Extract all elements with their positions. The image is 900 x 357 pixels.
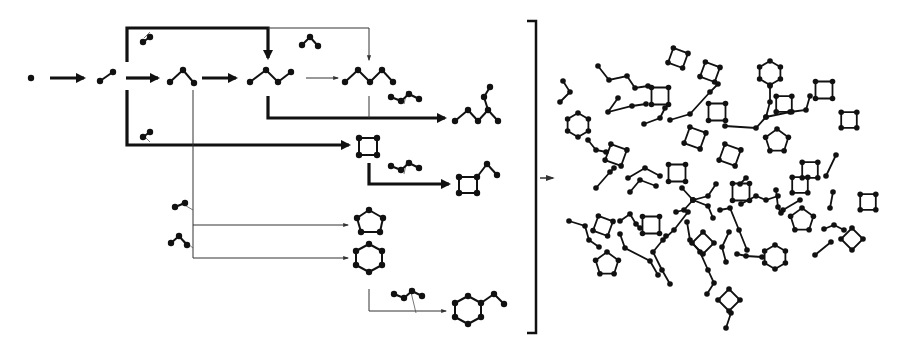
atom-node [711, 280, 717, 286]
atom-node [590, 228, 596, 234]
atom-node [710, 215, 716, 221]
atom-node [753, 125, 759, 131]
atom-node [627, 211, 633, 217]
atom-node [719, 244, 725, 250]
arrow-to-hexagon [193, 225, 348, 258]
atom-node [726, 229, 732, 235]
atom-node [833, 152, 839, 158]
atom-node [778, 210, 784, 216]
atom-node [666, 179, 672, 185]
atom-node [147, 34, 153, 40]
atom-node [608, 141, 614, 147]
atom-node [566, 218, 572, 224]
atom-node [494, 172, 500, 178]
atom-node [649, 102, 655, 108]
atom-node [726, 286, 732, 292]
diagram-canvas [0, 0, 900, 357]
atom-node [622, 245, 628, 251]
atom-node [797, 197, 803, 203]
atom-node [456, 190, 462, 196]
atom-node [474, 174, 480, 180]
atom-node [823, 173, 829, 179]
network-ring-hexagon [565, 110, 591, 140]
atom-node [172, 204, 178, 210]
molecule-trimer [167, 67, 197, 86]
atom-node [743, 175, 749, 181]
atom-node [813, 96, 819, 102]
atom-node [374, 152, 380, 158]
network-ring-pentagon [763, 126, 791, 153]
atom-node [671, 45, 677, 51]
atom-node [827, 205, 833, 211]
atom-node [586, 128, 592, 134]
network-ring-square [838, 109, 859, 130]
atom-node [560, 78, 566, 84]
molecule-reagent-trimer-left [168, 233, 190, 248]
network-ring-square [857, 191, 878, 212]
atom-node [767, 82, 773, 88]
network-ring-square [590, 213, 616, 239]
atom-node [593, 147, 599, 153]
reaction-arrows [50, 28, 553, 311]
atom-node [828, 239, 834, 245]
atom-node [838, 125, 844, 131]
molecule-square-tail [456, 161, 500, 196]
ring-bonds [709, 104, 726, 121]
ring-bonds [792, 177, 808, 193]
network-chain [557, 78, 573, 105]
atom-node [683, 179, 689, 185]
atom-node [788, 214, 794, 220]
atom-node [873, 191, 879, 197]
atom-node [713, 181, 719, 187]
atom-node [700, 251, 706, 257]
ring-bonds [652, 88, 669, 105]
atom-node [147, 129, 153, 135]
atom-node [715, 297, 721, 303]
atom-node [838, 109, 844, 115]
atom-node [647, 258, 653, 264]
atom-node [649, 85, 655, 91]
ring-bonds [719, 144, 741, 166]
atom-node [815, 175, 821, 181]
atom-node [625, 175, 631, 181]
atom-node [666, 102, 672, 108]
atom-node [857, 191, 863, 197]
atom-node [406, 160, 412, 166]
atom-node [465, 321, 471, 327]
network-ring-square [715, 286, 743, 314]
atom-node [685, 209, 691, 215]
molecule-monomer [28, 75, 34, 81]
atom-node [679, 185, 685, 191]
atom-node [478, 300, 484, 306]
network-ring-hexagon [757, 58, 783, 88]
polymer-network [557, 45, 878, 331]
atom-node [140, 39, 146, 45]
atom-node [377, 229, 383, 235]
atom-node [605, 233, 611, 239]
atom-node [627, 189, 633, 195]
atom-node [388, 94, 394, 100]
atom-node [557, 99, 563, 105]
atom-node [763, 197, 769, 203]
atom-node [767, 99, 773, 105]
atom-node [706, 101, 712, 107]
atom-node [452, 300, 458, 306]
atom-node [712, 79, 718, 85]
atom-node [757, 76, 763, 82]
atom-node [398, 98, 404, 104]
atom-node [757, 64, 763, 70]
atom-node [657, 173, 663, 179]
chain-bonds [826, 155, 836, 176]
atom-node [717, 207, 723, 213]
atom-node [767, 148, 773, 154]
atom-node [416, 165, 422, 171]
bracket [527, 21, 536, 333]
atom-node [697, 74, 703, 80]
network-chain [690, 197, 716, 221]
atom-node [860, 236, 866, 242]
network-ring-square [813, 79, 836, 102]
atom-node [465, 107, 471, 113]
atom-node [690, 197, 696, 203]
atom-node [799, 159, 805, 165]
atom-node [671, 227, 677, 233]
